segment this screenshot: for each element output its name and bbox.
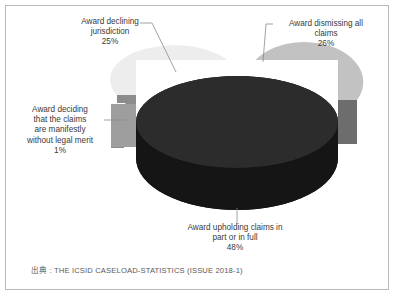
pie-label-manifestly-without-merit: Award deciding that the claims are manif… xyxy=(8,105,112,156)
source-citation: 出典 : THE ICSID CASELOAD-STATISTICS (ISSU… xyxy=(31,264,243,275)
pie-label-declining-jurisdiction: Award declining jurisdiction 25% xyxy=(62,17,158,48)
pie-slice-upholding-top-disc xyxy=(136,76,338,168)
screenshot-root: Award declining jurisdiction 25% Award d… xyxy=(0,0,396,302)
pie-label-upholding-claims: Award upholding claims in part or in ful… xyxy=(158,223,312,254)
pie-label-dismissing-all-claims: Award dismissing all claims 26% xyxy=(274,19,378,50)
pie-slice-upholding-claims[interactable] xyxy=(136,60,338,210)
